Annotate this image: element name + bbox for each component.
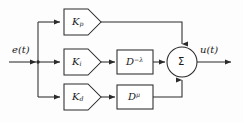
- diagram-vector-layer: [0, 0, 243, 123]
- block-diagram-canvas: e(t) u(t) Kp Ki Kd D−λ Dμ Σ: [0, 0, 243, 123]
- gain-block-kp-label: Kp: [72, 17, 83, 28]
- output-signal-label: u(t): [200, 45, 218, 55]
- operator-block-differentiator-label: Dμ: [128, 92, 140, 102]
- gain-block-ki-shape: [64, 49, 101, 75]
- summing-junction-label: Σ: [178, 57, 184, 67]
- junction-dots: [36, 60, 39, 63]
- input-signal-label: e(t): [12, 45, 30, 55]
- path-differentiator-to-sum: [153, 80, 182, 97]
- junction-dot-main: [36, 60, 39, 63]
- operator-block-integrator-label: D−λ: [126, 57, 143, 67]
- gain-block-ki-label: Ki: [72, 57, 81, 68]
- path-proportional-to-sum: [101, 22, 182, 44]
- gain-block-kd-label: Kd: [72, 92, 83, 103]
